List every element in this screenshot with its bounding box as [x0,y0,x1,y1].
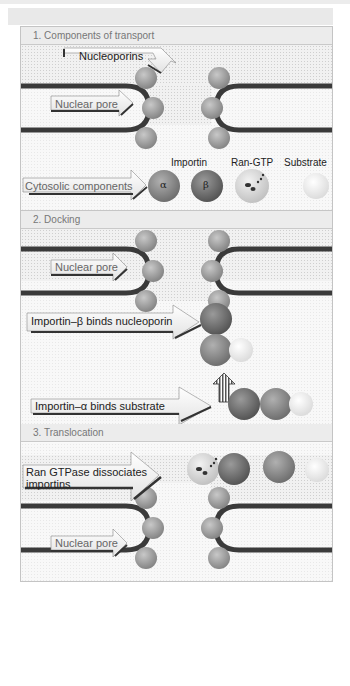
label-nuclear-pore: Nuclear pore [55,537,118,549]
substrate-icon [303,173,329,199]
legend-importin: Importin [171,157,207,168]
label-nuclear-pore: Nuclear pore [55,261,118,273]
label-nucleoporins: Nucleoporins [79,50,143,62]
label-nuclear-pore: Nuclear pore [55,98,118,110]
label-importin-alpha-binds: Importin–α binds substrate [35,400,165,412]
alpha-symbol: α [160,179,167,190]
ran-gtp-icon [235,169,269,203]
translocation-diagram [21,443,332,581]
beta-symbol: β [203,179,209,190]
panel-translocation: 3. Translocation [21,425,332,581]
label-importin-beta-binds: Importin–β binds nucleoporin [31,315,172,327]
panel-title: 1. Components of transport [21,27,332,45]
top-band [0,0,350,4]
top-band-secondary [8,8,333,25]
legend-substrate: Substrate [284,157,327,168]
legend-ran-gtp: Ran-GTP [231,157,273,168]
panel-title: 2. Docking [21,211,332,229]
label-cytosolic-components: Cytosolic components [25,180,133,192]
panel-docking: 2. Docking [21,211,332,424]
label-ran-dissociates-line2: importins [26,478,71,490]
panel-components: 1. Components of transport [21,27,332,210]
nuclear-transport-figure: 1. Components of transport [20,26,333,582]
label-ran-dissociates-line1: Ran GTPase dissociates [26,466,147,478]
panel-title: 3. Translocation [21,424,332,442]
